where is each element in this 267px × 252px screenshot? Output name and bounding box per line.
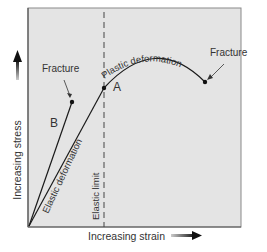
x-axis-arrow-icon xyxy=(192,231,202,240)
y-axis-label: Increasing stress xyxy=(11,120,23,199)
fracture-a-point xyxy=(203,80,207,84)
x-axis-arrow-shaft xyxy=(171,234,195,237)
fracture-b-point xyxy=(70,100,74,104)
y-axis-arrow-icon xyxy=(13,50,22,62)
fracture-b-label: Fracture xyxy=(42,63,80,74)
curve-b-label: B xyxy=(50,116,58,130)
x-axis-label: Increasing strain xyxy=(88,230,165,242)
plot-area xyxy=(28,8,241,227)
elastic-limit-label: Elastic limit xyxy=(90,172,101,220)
stress-strain-diagram: Fracture Fracture B A Plastic deformatio… xyxy=(0,0,267,252)
y-axis-arrow-shaft xyxy=(16,60,19,80)
point-a-label: A xyxy=(113,80,121,94)
fracture-a-label: Fracture xyxy=(210,47,248,58)
